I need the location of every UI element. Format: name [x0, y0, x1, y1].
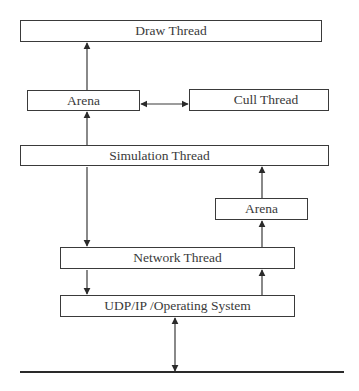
simulation-thread-box: Simulation Thread: [20, 145, 329, 166]
simulation-thread-label: Simulation Thread: [109, 149, 210, 163]
connector-layer: [0, 0, 359, 391]
arena-right-label: Arena: [245, 202, 278, 216]
arena-left-box: Arena: [27, 90, 140, 111]
cull-thread-box: Cull Thread: [189, 89, 329, 111]
arena-right-box: Arena: [215, 198, 308, 220]
draw-thread-label: Draw Thread: [135, 24, 206, 38]
udp-os-label: UDP/IP /Operating System: [104, 299, 251, 313]
arena-left-label: Arena: [67, 94, 100, 108]
draw-thread-box: Draw Thread: [20, 20, 322, 42]
network-thread-box: Network Thread: [60, 247, 295, 269]
udp-os-box: UDP/IP /Operating System: [60, 295, 295, 317]
cull-thread-label: Cull Thread: [220, 93, 299, 107]
network-thread-label: Network Thread: [133, 251, 222, 265]
